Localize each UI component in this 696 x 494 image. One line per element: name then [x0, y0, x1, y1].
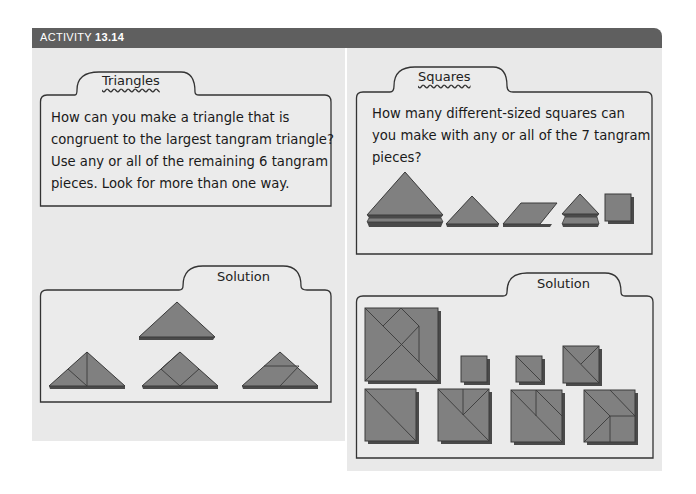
question-line: How can you make a triangle that is [51, 107, 334, 129]
triangles-solution-label: Solution [217, 269, 270, 284]
question-line: you make with any or all of the 7 tangra… [372, 125, 650, 147]
squares-tab-title: Squares [418, 69, 471, 84]
squares-panel: Squares How many different-sized squares… [347, 48, 662, 471]
question-line: pieces? [372, 147, 650, 169]
squares-question-card: Squares How many different-sized squares… [355, 64, 655, 256]
triangles-solution-card: Solution [39, 264, 334, 404]
activity-header: ACTIVITY 13.14 [32, 28, 662, 48]
question-line: congruent to the largest tangram triangl… [51, 129, 334, 151]
triangles-question-card: Triangles How can you make a triangle th… [39, 62, 334, 207]
squares-question: How many different-sized squares can you… [372, 103, 650, 169]
solution-outline [39, 264, 334, 404]
solution-outline [355, 270, 655, 460]
question-line: How many different-sized squares can [372, 103, 650, 125]
square-piece [605, 194, 634, 224]
activity-prefix: ACTIVITY [40, 31, 95, 43]
large-square-solution [365, 308, 441, 384]
squares-solution-card: Solution [355, 270, 655, 460]
triangles-panel: Triangles How can you make a triangle th… [32, 48, 345, 441]
activity-number: 13.14 [95, 31, 124, 43]
triangles-tab-title: Triangles [102, 73, 160, 88]
squares-solution-label: Solution [537, 276, 590, 291]
question-line: pieces. Look for more than one way. [51, 173, 334, 195]
activity-title: ACTIVITY 13.14 [40, 31, 124, 43]
triangles-question: How can you make a triangle that is cong… [51, 107, 334, 195]
question-line: Use any or all of the remaining 6 tangra… [51, 151, 334, 173]
